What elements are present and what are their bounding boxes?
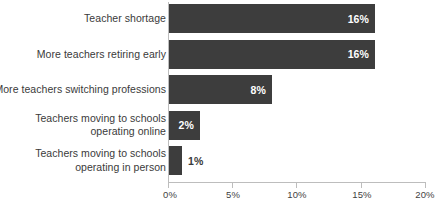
category-label-line: operating in person (75, 161, 166, 173)
category-label-line: Teachers moving to schools (35, 112, 166, 124)
category-label-line: More teachers retiring early (37, 48, 166, 60)
bar-row-retiring-early: More teachers retiring early 16% (0, 40, 439, 69)
x-axis-tick-label-1: 5% (226, 189, 240, 200)
bar-teacher-shortage: 16% (169, 4, 375, 33)
bar-retiring-early: 16% (169, 40, 375, 69)
bar-row-schools-online: Teachers moving to schools operating onl… (0, 111, 439, 140)
category-label-schools-online: Teachers moving to schools operating onl… (0, 112, 166, 138)
bar-schools-online: 2% (169, 111, 200, 140)
category-label-line: operating online (90, 125, 166, 137)
bar-value-label-schools-in-person: 1% (188, 155, 203, 167)
category-label-retiring-early: More teachers retiring early (0, 48, 166, 62)
x-axis-tick-3 (361, 183, 362, 188)
category-label-schools-in-person: Teachers moving to schools operating in … (0, 147, 166, 173)
category-label-line: More teachers switching professions (0, 83, 166, 95)
x-axis-tick-1 (232, 183, 233, 188)
bar-schools-in-person (169, 146, 182, 175)
category-label-line: Teachers moving to schools (35, 147, 166, 159)
x-axis-tick-2 (296, 183, 297, 188)
x-axis-line (168, 182, 426, 183)
x-axis-tick-label-2: 10% (287, 189, 306, 200)
category-label-line: Teacher shortage (84, 12, 166, 24)
x-axis-tick-0 (168, 183, 169, 188)
bar-switching-professions: 8% (169, 75, 272, 104)
category-label-switching-professions: More teachers switching professions (0, 83, 166, 97)
category-label-teacher-shortage: Teacher shortage (0, 12, 166, 26)
bar-value-label-retiring-early: 16% (348, 48, 369, 60)
bar-chart: 0% 5% 10% 15% 20% Teacher shortage 16% M… (0, 0, 439, 211)
bar-row-schools-in-person: Teachers moving to schools operating in … (0, 146, 439, 175)
bar-value-label-switching-professions: 8% (251, 84, 266, 96)
bar-value-label-teacher-shortage: 16% (348, 13, 369, 25)
bar-row-switching-professions: More teachers switching professions 8% (0, 75, 439, 104)
x-axis-tick-label-3: 15% (352, 189, 371, 200)
x-axis-tick-label-4: 20% (415, 189, 434, 200)
bar-row-teacher-shortage: Teacher shortage 16% (0, 4, 439, 33)
x-axis-tick-label-0: 0% (163, 189, 177, 200)
bar-value-label-schools-online: 2% (179, 119, 194, 131)
x-axis-tick-4 (425, 183, 426, 188)
